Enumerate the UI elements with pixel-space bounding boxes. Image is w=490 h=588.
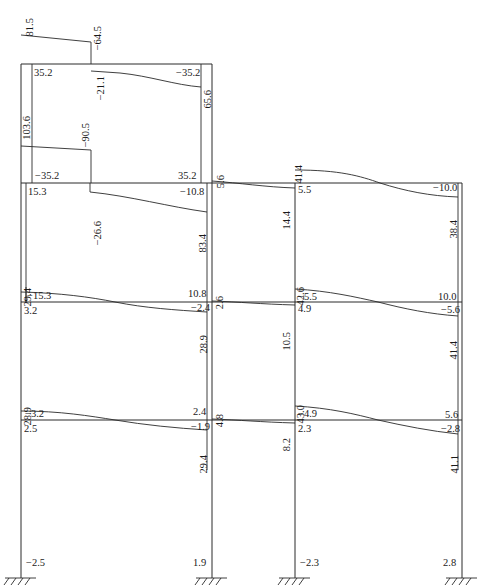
moment-value-label: −1.9 xyxy=(191,421,210,432)
moment-value-label: 15.3 xyxy=(28,186,46,197)
fixed-supports xyxy=(4,578,477,585)
bending-moment-diagram: 81.5−64.535.2−35.2−21.165.6103.6−90.5−35… xyxy=(0,0,490,588)
moment-value-label: 83.4 xyxy=(197,233,208,252)
moment-value-label: 103.6 xyxy=(21,116,32,140)
moment-value-label: 5.6 xyxy=(445,409,458,420)
moment-value-label: 3.2 xyxy=(24,305,37,316)
moment-value-label: −3.2 xyxy=(25,408,44,419)
fixed-support-icon xyxy=(195,578,227,585)
moment-value-label: 10.5 xyxy=(281,332,292,350)
fixed-support-icon xyxy=(278,578,310,585)
moment-value-label: −2.3 xyxy=(300,557,319,568)
moment-value-label: 4.9 xyxy=(298,303,311,314)
moment-value-label: 2.6 xyxy=(214,296,225,309)
moment-curves xyxy=(21,35,458,470)
moment-value-label: 10.0 xyxy=(438,291,456,302)
moment-value-label: −10.8 xyxy=(180,186,204,197)
moment-value-label: 41.4 xyxy=(293,164,304,183)
moment-value-label: 65.6 xyxy=(202,90,213,108)
moment-value-labels: 81.5−64.535.2−35.2−21.165.6103.6−90.5−35… xyxy=(21,18,460,568)
moment-value-label: 35.2 xyxy=(178,170,196,181)
moment-value-label: 81.5 xyxy=(24,18,35,36)
moment-value-label: −26.6 xyxy=(92,221,103,245)
moment-value-label: −2.5 xyxy=(26,557,45,568)
moment-value-label: 28.9 xyxy=(198,335,209,353)
moment-value-label: 35.2 xyxy=(34,67,52,78)
fixed-support-icon xyxy=(445,578,477,585)
moment-value-label: 2.4 xyxy=(193,406,207,417)
moment-value-label: 5.6 xyxy=(215,175,226,188)
moment-value-label: 1.9 xyxy=(193,557,206,568)
moment-top-roof-beam xyxy=(21,35,91,64)
moment-value-label: 2.3 xyxy=(298,423,311,434)
moment-value-label: −15.3 xyxy=(27,290,51,301)
moment-value-label: −2.4 xyxy=(191,302,211,313)
moment-value-label: 8.2 xyxy=(281,438,292,451)
moment-value-label: −35.2 xyxy=(35,170,59,181)
moment-value-label: −5.6 xyxy=(441,304,460,315)
moment-value-label: 10.8 xyxy=(188,288,206,299)
moment-value-label: −35.2 xyxy=(176,67,200,78)
moment-value-label: 41.1 xyxy=(449,455,460,473)
moment-value-label: −4.9 xyxy=(298,408,317,419)
fixed-support-icon xyxy=(4,578,36,585)
moment-value-label: −2.8 xyxy=(441,423,460,434)
moment-value-label: 2.5 xyxy=(24,423,37,434)
moment-value-label: 38.4 xyxy=(448,219,459,238)
moment-value-label: 14.4 xyxy=(281,210,292,229)
moment-value-label: −21.1 xyxy=(95,76,106,100)
moment-value-label: 41.4 xyxy=(448,340,459,359)
moment-value-label: 5.5 xyxy=(298,184,311,195)
moment-value-label: 4.8 xyxy=(214,414,225,427)
moment-value-label: −64.5 xyxy=(92,26,103,50)
moment-value-label: −10.0 xyxy=(433,182,457,193)
moment-value-label: 29.4 xyxy=(198,454,209,473)
moment-value-label: −90.5 xyxy=(80,123,91,147)
moment-value-label: −5.5 xyxy=(298,291,317,302)
moment-value-label: 2.8 xyxy=(443,557,456,568)
